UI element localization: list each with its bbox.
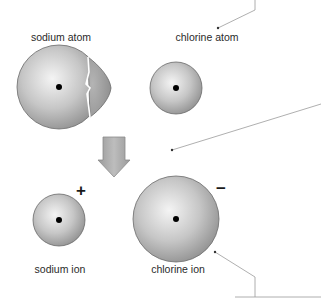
chlorine-ion-nucleus: [173, 216, 179, 222]
sodium-atom-nucleus: [56, 84, 62, 90]
sodium-atom: [17, 45, 111, 129]
sodium-atom-label: sodium atom: [31, 31, 91, 43]
sodium-ion-label: sodium ion: [35, 263, 86, 275]
diagram-canvas: [0, 0, 321, 298]
ion-formation-diagram: sodium atom chlorine atom sodium ion chl…: [0, 0, 321, 298]
positive-charge-sign: +: [76, 182, 86, 199]
sodium-ion: [33, 194, 85, 246]
down-arrow-icon: [98, 137, 130, 177]
chlorine-ion-label: chlorine ion: [151, 263, 205, 275]
sodium-outer-electron-shell: [88, 57, 111, 117]
negative-charge-sign: −: [216, 180, 226, 197]
chlorine-atom-label: chlorine atom: [175, 31, 238, 43]
chlorine-atom: [150, 62, 202, 114]
sodium-ion-nucleus: [56, 217, 62, 223]
leader-line-middle: [172, 104, 321, 150]
leader-line-top: [218, 0, 255, 28]
chlorine-ion: [133, 176, 219, 262]
leader-line-bottom: [215, 252, 255, 297]
chlorine-atom-nucleus: [173, 85, 179, 91]
